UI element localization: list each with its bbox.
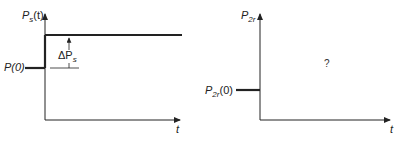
diagram-canvas — [0, 0, 404, 143]
left-x-axis-label: t — [176, 123, 179, 135]
delta-label: ΔPs — [58, 49, 77, 64]
left-axes — [45, 14, 180, 120]
right-initial-value-label: P2r(0) — [205, 84, 233, 99]
step-signal — [25, 35, 182, 68]
right-x-axis-label: t — [390, 123, 393, 135]
initial-value-label: P(0) — [4, 61, 25, 73]
right-y-axis-label: P2r — [241, 9, 255, 24]
unknown-response-marker: ? — [324, 58, 330, 69]
left-y-axis-label: Ps(t) — [22, 9, 44, 24]
